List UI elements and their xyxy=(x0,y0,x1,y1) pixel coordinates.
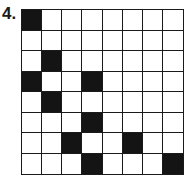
grid-cell-empty xyxy=(82,51,102,72)
grid-cell-empty xyxy=(143,72,163,93)
grid-cell-empty xyxy=(82,133,102,154)
grid-cell-empty xyxy=(143,92,163,113)
grid-cell-empty xyxy=(22,154,42,175)
pattern-grid xyxy=(21,9,184,175)
grid-cell-empty xyxy=(163,51,183,72)
grid-cell-empty xyxy=(103,31,123,52)
grid-cell-empty xyxy=(42,31,62,52)
grid-cell-filled xyxy=(22,72,42,93)
grid-cell-empty xyxy=(163,133,183,154)
grid-cell-empty xyxy=(123,10,143,31)
grid-cell-empty xyxy=(143,10,163,31)
grid-cell-empty xyxy=(123,154,143,175)
grid-cell-empty xyxy=(103,92,123,113)
grid-cell-filled xyxy=(82,154,102,175)
grid-cell-filled xyxy=(62,133,82,154)
grid-cell-empty xyxy=(22,92,42,113)
grid-cell-empty xyxy=(163,92,183,113)
grid-cell-empty xyxy=(22,31,42,52)
grid-cell-empty xyxy=(163,113,183,134)
grid-cell-filled xyxy=(22,10,42,31)
grid-cell-empty xyxy=(103,72,123,93)
grid-cell-empty xyxy=(143,31,163,52)
grid-cell-empty xyxy=(22,133,42,154)
grid-cell-filled xyxy=(82,113,102,134)
grid-cell-empty xyxy=(82,92,102,113)
grid-cell-empty xyxy=(163,10,183,31)
grid-cell-empty xyxy=(163,72,183,93)
grid-cell-empty xyxy=(62,92,82,113)
grid-cell-empty xyxy=(62,51,82,72)
grid-cell-filled xyxy=(123,133,143,154)
grid-cell-empty xyxy=(42,133,62,154)
grid-cell-empty xyxy=(103,51,123,72)
grid-cell-empty xyxy=(62,72,82,93)
grid-cell-empty xyxy=(42,10,62,31)
grid-cell-empty xyxy=(103,154,123,175)
grid-cell-empty xyxy=(22,113,42,134)
grid-cell-empty xyxy=(143,113,163,134)
grid-cell-empty xyxy=(42,113,62,134)
grid-cell-empty xyxy=(103,133,123,154)
grid-cell-empty xyxy=(42,72,62,93)
grid-cell-empty xyxy=(62,113,82,134)
grid-cell-empty xyxy=(123,51,143,72)
grid-cell-empty xyxy=(103,113,123,134)
grid-cell-filled xyxy=(42,92,62,113)
grid-cell-empty xyxy=(123,72,143,93)
grid-cell-empty xyxy=(103,10,123,31)
grid-cell-empty xyxy=(143,154,163,175)
grid-cell-empty xyxy=(163,31,183,52)
grid-cell-empty xyxy=(22,51,42,72)
grid-cell-filled xyxy=(42,51,62,72)
grid-cell-empty xyxy=(62,154,82,175)
grid-cell-filled xyxy=(82,72,102,93)
grid-cell-empty xyxy=(62,10,82,31)
grid-cell-filled xyxy=(163,154,183,175)
grid-cell-empty xyxy=(123,113,143,134)
grid-cell-empty xyxy=(82,31,102,52)
grid-cell-empty xyxy=(62,31,82,52)
grid-cell-empty xyxy=(143,133,163,154)
grid-cell-empty xyxy=(82,10,102,31)
grid-cell-empty xyxy=(143,51,163,72)
grid-cell-empty xyxy=(123,92,143,113)
problem-number: 4. xyxy=(2,4,16,24)
grid-cell-empty xyxy=(42,154,62,175)
grid-cell-empty xyxy=(123,31,143,52)
